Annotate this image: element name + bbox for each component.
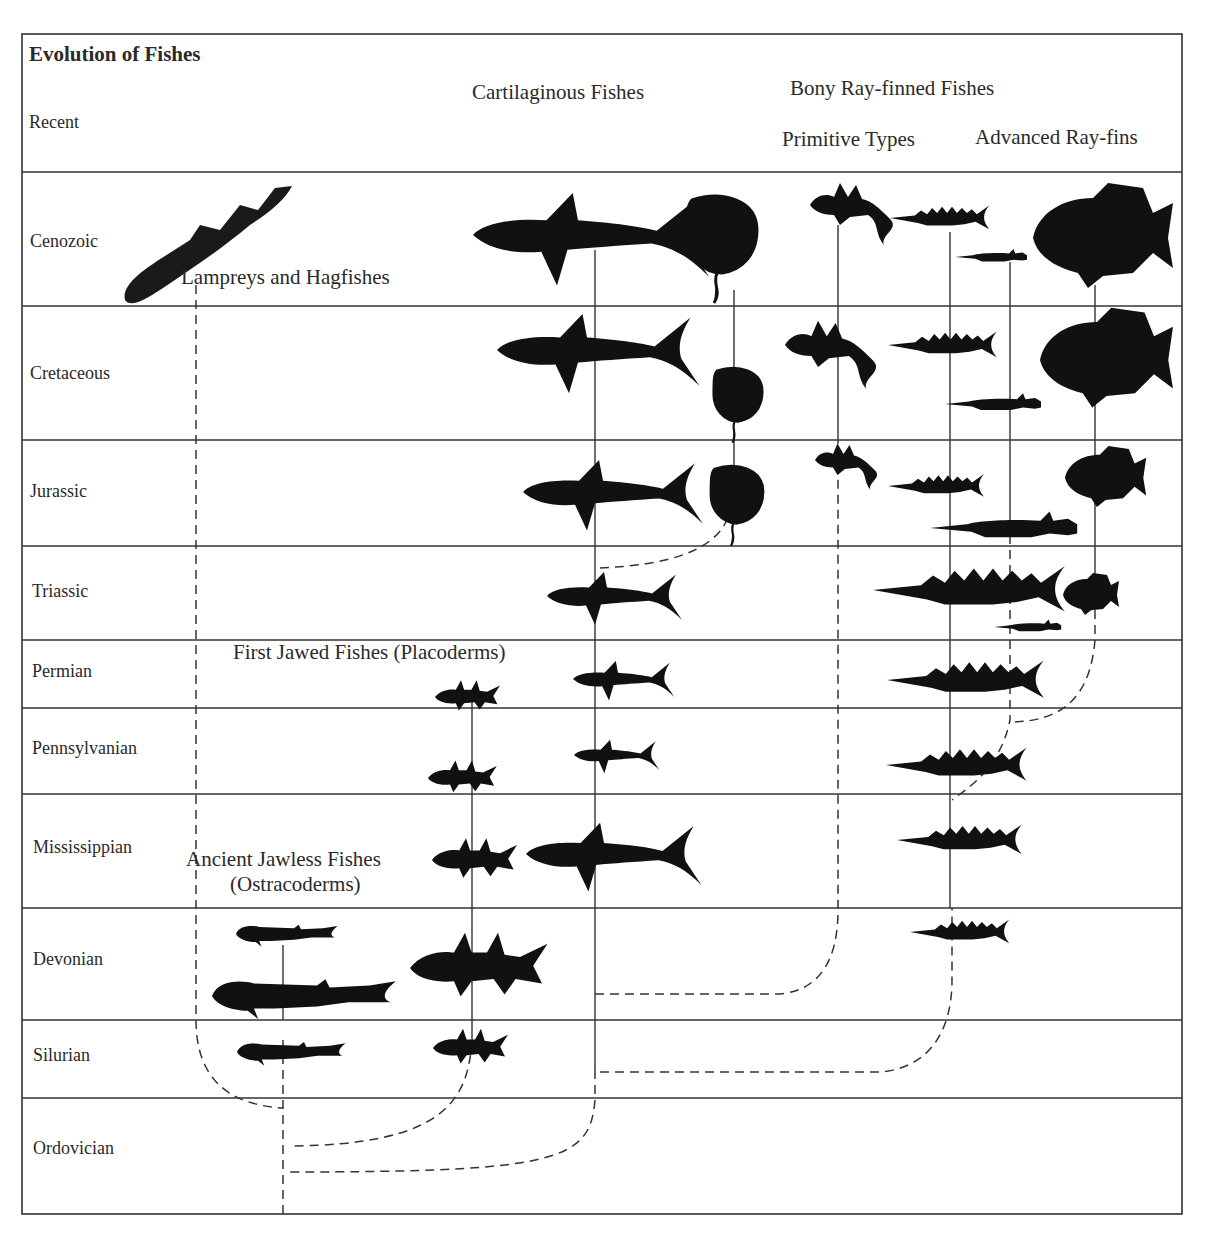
bichir-cenozoic [810, 183, 893, 245]
placoderm-pennsylvanian [428, 760, 497, 792]
placoderm-devonian [410, 933, 548, 997]
group-label-lampreys: Lampreys and Hagfishes [181, 265, 390, 290]
ray-cenozoic [687, 196, 757, 303]
column-header-bony: Bony Ray-finned Fishes [790, 76, 994, 101]
shark-pennsylvanian [574, 740, 660, 773]
perch-cretaceous [1040, 308, 1173, 408]
agnathan-devonian-large [212, 979, 396, 1019]
sturgeon-cretaceous [888, 331, 997, 357]
shark-mississippian [526, 823, 702, 892]
gar-jurassic [930, 511, 1077, 537]
perch-cenozoic [1033, 183, 1173, 288]
period-label-jurassic: Jurassic [30, 481, 87, 502]
column-header-cartilaginous: Cartilaginous Fishes [472, 80, 644, 105]
shark-jurassic [523, 460, 703, 530]
shark-triassic [547, 572, 682, 625]
gar-cenozoic [955, 249, 1027, 262]
column-header-primitive: Primitive Types [782, 127, 915, 152]
sturgeon-devonian [910, 920, 1009, 944]
perch-jurassic [1065, 446, 1146, 507]
ray-jurassic [711, 466, 764, 546]
period-label-pennsylvanian: Pennsylvanian [32, 738, 137, 759]
sturgeon-pennsylvanian [886, 747, 1027, 780]
shark-cretaceous [497, 314, 700, 393]
column-header-advanced: Advanced Ray-fins [975, 125, 1138, 150]
placoderm-permian [435, 680, 500, 710]
group-label-placoderms: First Jawed Fishes (Placoderms) [233, 640, 505, 665]
period-label-mississippian: Mississippian [33, 837, 132, 858]
group-label-ostracoderms-line2: (Ostracoderms) [230, 872, 361, 897]
period-label-triassic: Triassic [32, 581, 88, 602]
sturgeon-triassic [873, 566, 1065, 612]
row-label-recent: Recent [29, 112, 79, 133]
shark-permian [573, 661, 674, 701]
agnathan-silurian [237, 1042, 346, 1066]
group-label-ostracoderms-line1: Ancient Jawless Fishes [186, 847, 381, 872]
period-label-devonian: Devonian [33, 949, 103, 970]
ray-cretaceous [714, 368, 763, 443]
gar-triassic [994, 619, 1061, 631]
sturgeon-cenozoic [890, 206, 989, 230]
period-label-ordovician: Ordovician [33, 1138, 114, 1159]
evolution-diagram [0, 0, 1212, 1236]
gar-cretaceous [945, 393, 1041, 410]
bichir-jurassic [815, 444, 877, 491]
period-label-cenozoic: Cenozoic [30, 231, 98, 252]
sturgeon-permian [887, 660, 1044, 697]
page-title: Evolution of Fishes [29, 42, 201, 67]
period-label-cretaceous: Cretaceous [30, 363, 110, 384]
bichir-cretaceous [785, 321, 876, 389]
period-label-silurian: Silurian [33, 1045, 90, 1066]
perch-triassic [1063, 573, 1119, 615]
period-label-permian: Permian [32, 661, 92, 682]
placoderm-mississippian [432, 838, 517, 877]
agnathan-devonian-small [236, 925, 338, 947]
shark-cenozoic [473, 193, 709, 285]
sturgeon-jurassic [888, 474, 984, 497]
sturgeon-mississippian [897, 824, 1022, 854]
